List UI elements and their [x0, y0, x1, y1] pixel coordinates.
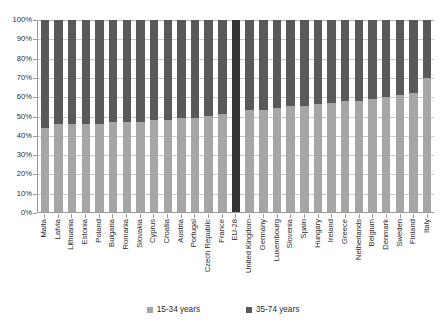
stacked-bar[interactable]: [382, 20, 390, 212]
bar-slot: [366, 20, 380, 212]
bar-segment-35-74: [41, 20, 49, 128]
stacked-bar[interactable]: [54, 20, 62, 212]
bar-slot: [175, 20, 189, 212]
x-axis-tick-mark: [126, 214, 127, 218]
x-axis-label-slot: Slovakia: [133, 214, 147, 300]
bar-segment-35-74: [136, 20, 144, 122]
bar-segment-35-74: [191, 20, 199, 118]
bar-segment-15-34: [232, 112, 240, 212]
x-axis-tick-label: Denmark: [382, 219, 390, 250]
x-axis-label-slot: Cyprus: [147, 214, 161, 300]
x-axis-tick-label: EU-28: [232, 219, 240, 241]
y-axis-tick-label: 50%: [0, 113, 32, 121]
x-axis-tick-mark: [359, 214, 360, 218]
x-axis-tick-mark: [71, 214, 72, 218]
stacked-bar[interactable]: [245, 20, 253, 212]
stacked-bar[interactable]: [95, 20, 103, 212]
stacked-bar[interactable]: [423, 20, 431, 212]
stacked-bar[interactable]: [41, 20, 49, 212]
bar-segment-15-34: [136, 122, 144, 212]
x-axis-tick-label: Latvia: [54, 219, 62, 239]
x-axis-tick-label: Slovakia: [136, 219, 144, 248]
stacked-bar[interactable]: [164, 20, 172, 212]
x-axis-label-slot: Spain: [297, 214, 311, 300]
x-axis-label-slot: Lithuania: [64, 214, 78, 300]
bar-slot: [257, 20, 271, 212]
stacked-bar[interactable]: [368, 20, 376, 212]
stacked-bar[interactable]: [68, 20, 76, 212]
bar-segment-15-34: [341, 101, 349, 212]
stacked-bar[interactable]: [136, 20, 144, 212]
x-axis-label-slot: Poland: [92, 214, 106, 300]
bar-slot: [407, 20, 421, 212]
x-axis-tick-mark: [400, 214, 401, 218]
bar-segment-35-74: [95, 20, 103, 124]
bar-slot: [106, 20, 120, 212]
stacked-bar[interactable]: [396, 20, 404, 212]
stacked-bar[interactable]: [286, 20, 294, 212]
bar-segment-15-34: [259, 110, 267, 212]
legend-item[interactable]: 35-74 years: [246, 305, 299, 314]
bar-segment-15-34: [41, 128, 49, 212]
stacked-bar[interactable]: [341, 20, 349, 212]
stacked-bar[interactable]: [355, 20, 363, 212]
x-axis-tick-mark: [208, 214, 209, 218]
x-axis-label-slot: Romania: [119, 214, 133, 300]
y-axis: 100%90%80%70%60%50%40%30%20%10%0%: [0, 0, 37, 213]
y-axis-tick-label: 20%: [0, 170, 32, 178]
x-axis-tick-label: Belgium: [369, 219, 377, 246]
bar-segment-15-34: [218, 114, 226, 212]
legend-label: 35-74 years: [256, 305, 299, 314]
bar-segment-15-34: [164, 120, 172, 212]
stacked-bar[interactable]: [82, 20, 90, 212]
legend-label: 15-34 years: [157, 305, 200, 314]
stacked-bar[interactable]: [218, 20, 226, 212]
stacked-bar[interactable]: [232, 20, 240, 212]
bar-segment-15-34: [245, 110, 253, 212]
y-axis-tick-label: 70%: [0, 74, 32, 82]
stacked-bar[interactable]: [273, 20, 281, 212]
stacked-bar[interactable]: [109, 20, 117, 212]
y-axis-tick-label: 0%: [0, 209, 32, 217]
stacked-bar[interactable]: [300, 20, 308, 212]
stacked-bar[interactable]: [177, 20, 185, 212]
bar-segment-35-74: [382, 20, 390, 97]
bar-segment-35-74: [54, 20, 62, 124]
stacked-bar[interactable]: [259, 20, 267, 212]
x-axis-tick-label: Slovenia: [286, 219, 294, 248]
x-axis-label-slot: Greece: [338, 214, 352, 300]
x-axis-tick-mark: [304, 214, 305, 218]
stacked-bar[interactable]: [191, 20, 199, 212]
x-axis-label-slot: Denmark: [379, 214, 393, 300]
x-axis-label-slot: Croatia: [160, 214, 174, 300]
x-axis-tick-mark: [290, 214, 291, 218]
x-axis-tick-label: Luxembourg: [273, 219, 281, 261]
x-axis-label-slot: Germany: [256, 214, 270, 300]
x-axis-tick-mark: [194, 214, 195, 218]
bar-segment-35-74: [164, 20, 172, 120]
stacked-bar[interactable]: [327, 20, 335, 212]
x-axis-tick-label: Bulgaria: [108, 219, 116, 247]
x-axis-tick-label: Sweden: [396, 219, 404, 246]
bar-segment-35-74: [327, 20, 335, 103]
x-axis-tick-mark: [99, 214, 100, 218]
stacked-bar[interactable]: [123, 20, 131, 212]
x-axis-label-slot: Latvia: [51, 214, 65, 300]
x-axis-tick-mark: [249, 214, 250, 218]
bar-slot: [93, 20, 107, 212]
x-axis-label-slot: Luxembourg: [270, 214, 284, 300]
x-axis-tick-label: Romania: [122, 219, 130, 249]
x-axis-label-slot: Czech Republic: [201, 214, 215, 300]
x-axis-tick-mark: [167, 214, 168, 218]
y-axis-tick-label: 60%: [0, 93, 32, 101]
bar-slot: [38, 20, 52, 212]
legend-item[interactable]: 15-34 years: [147, 305, 200, 314]
stacked-bar[interactable]: [314, 20, 322, 212]
x-axis-tick-mark: [427, 214, 428, 218]
x-axis-tick-mark: [263, 214, 264, 218]
stacked-bar[interactable]: [204, 20, 212, 212]
bar-slot: [216, 20, 230, 212]
stacked-bar[interactable]: [150, 20, 158, 212]
x-axis-tick-mark: [58, 214, 59, 218]
stacked-bar[interactable]: [409, 20, 417, 212]
